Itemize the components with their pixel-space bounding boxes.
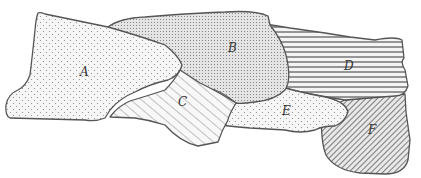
region-f-label: F <box>367 123 377 137</box>
region-d-label: D <box>343 59 354 73</box>
region-diagram: F D E B C A <box>0 0 421 178</box>
region-a-label: A <box>79 65 89 79</box>
region-e-label: E <box>281 104 291 118</box>
region-c-label: C <box>178 95 187 109</box>
region-b-label: B <box>227 41 237 55</box>
